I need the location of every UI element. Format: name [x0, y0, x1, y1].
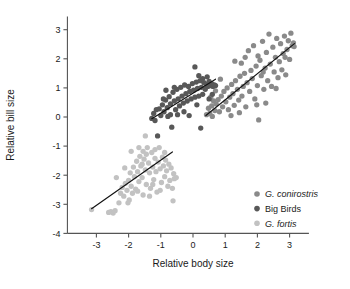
data-point — [277, 59, 282, 64]
legend-marker — [254, 191, 260, 197]
data-point — [282, 33, 287, 38]
legend-label: G. fortis — [265, 219, 297, 229]
data-point — [200, 92, 205, 97]
x-tick-label: 0 — [190, 240, 195, 250]
data-point — [270, 45, 275, 50]
scatter-plot-figure: -3-2-101233210-1-2-3-4Relative body size… — [0, 0, 350, 289]
data-point — [233, 78, 238, 83]
data-point — [274, 36, 279, 41]
data-point — [167, 94, 172, 99]
data-point — [121, 194, 126, 199]
data-point — [154, 107, 159, 112]
data-point — [147, 170, 152, 175]
data-point — [155, 133, 160, 138]
data-point — [143, 133, 148, 138]
data-point — [129, 149, 134, 154]
axes-layer: -3-2-101233210-1-2-3-4Relative body size… — [5, 17, 309, 270]
data-point — [224, 85, 229, 90]
x-tick-label: 1 — [223, 240, 228, 250]
data-point — [146, 160, 151, 165]
data-point — [151, 177, 156, 182]
data-point — [131, 164, 136, 169]
data-point — [139, 161, 144, 166]
data-point — [279, 67, 284, 72]
data-point — [163, 88, 168, 93]
data-point — [255, 53, 260, 58]
data-point — [170, 186, 175, 191]
data-point — [218, 77, 223, 82]
data-point — [260, 39, 265, 44]
data-point — [243, 55, 248, 60]
data-point — [168, 112, 173, 117]
data-point — [248, 68, 253, 73]
data-point — [239, 61, 244, 66]
y-tick-label: 0 — [55, 112, 60, 122]
data-point — [252, 96, 257, 101]
data-point — [161, 96, 166, 101]
y-tick-label: -4 — [52, 229, 60, 239]
data-point — [275, 75, 280, 80]
x-axis-title: Relative body size — [152, 258, 234, 269]
data-point — [286, 38, 291, 43]
data-point — [158, 188, 163, 193]
series-g-conirostris — [204, 31, 297, 123]
data-point — [273, 86, 278, 91]
data-point — [170, 198, 175, 203]
data-point — [172, 85, 177, 90]
x-tick-label: -3 — [92, 240, 100, 250]
data-point — [253, 63, 258, 68]
data-point — [141, 157, 146, 162]
data-point — [217, 109, 222, 114]
y-tick-label: -1 — [52, 141, 60, 151]
data-point — [228, 113, 233, 118]
x-tick-label: -1 — [157, 240, 165, 250]
data-point — [186, 113, 191, 118]
y-tick-label: 3 — [55, 25, 60, 35]
data-point — [139, 175, 144, 180]
data-point — [136, 145, 141, 150]
data-point — [237, 74, 242, 79]
data-point — [145, 145, 150, 150]
data-point — [254, 102, 259, 107]
data-point — [247, 89, 252, 94]
data-point — [168, 165, 173, 170]
data-point — [161, 163, 166, 168]
data-point — [128, 170, 133, 175]
data-point — [237, 110, 242, 115]
data-point — [282, 55, 287, 60]
x-tick-label: 2 — [255, 240, 260, 250]
data-point — [232, 58, 237, 63]
data-point — [261, 87, 266, 92]
data-point — [150, 182, 155, 187]
data-point — [232, 103, 237, 108]
data-point — [162, 150, 167, 155]
series-big-birds — [149, 64, 218, 138]
plot-canvas: -3-2-101233210-1-2-3-4Relative body size… — [0, 0, 350, 289]
data-point — [173, 107, 178, 112]
data-point — [213, 83, 218, 88]
data-point — [134, 159, 139, 164]
data-point — [263, 100, 268, 105]
data-point — [251, 43, 256, 48]
x-tick-label: -2 — [125, 240, 133, 250]
data-point — [165, 184, 170, 189]
series-g-fortis — [89, 133, 179, 215]
data-point — [206, 96, 211, 101]
data-point — [198, 125, 203, 130]
data-point — [200, 76, 205, 81]
data-point — [255, 83, 260, 88]
data-point — [152, 147, 157, 152]
data-point — [192, 64, 197, 69]
y-axis-title: Relative bill size — [5, 89, 16, 161]
legend-label: Big Birds — [265, 204, 302, 214]
data-point — [265, 78, 270, 83]
data-point — [135, 189, 140, 194]
data-point — [283, 72, 288, 77]
data-point — [135, 169, 140, 174]
y-tick-label: -3 — [52, 200, 60, 210]
data-point — [220, 104, 225, 109]
data-point — [174, 175, 179, 180]
y-tick-label: 2 — [55, 54, 60, 64]
data-point — [125, 200, 130, 205]
data-point — [264, 50, 269, 55]
